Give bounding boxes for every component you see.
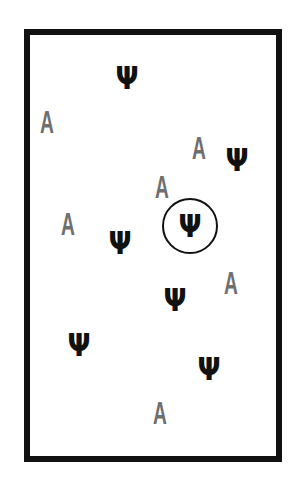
letter-a: A xyxy=(153,398,167,429)
letter-a: A xyxy=(40,107,54,138)
letter-a: A xyxy=(61,209,75,240)
psi-symbol: Ψ xyxy=(115,62,138,94)
letter-a: A xyxy=(155,172,169,203)
psi-symbol: Ψ xyxy=(67,329,90,361)
circled-psi-symbol: Ψ xyxy=(178,210,201,242)
letter-a: A xyxy=(192,133,206,164)
psi-symbol: Ψ xyxy=(163,284,186,316)
psi-symbol: Ψ xyxy=(225,144,248,176)
letter-a: A xyxy=(224,268,238,299)
psi-symbol: Ψ xyxy=(108,227,131,259)
psi-symbol: Ψ xyxy=(197,353,220,385)
